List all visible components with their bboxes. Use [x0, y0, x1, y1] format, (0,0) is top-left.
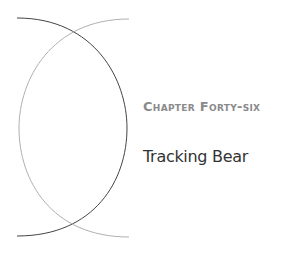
chapter-title: Tracking Bear	[143, 147, 248, 166]
decorative-arcs	[0, 0, 297, 259]
dark-arc	[17, 18, 127, 236]
light-arc	[19, 19, 129, 237]
chapter-number: Chapter Forty-six	[143, 99, 260, 114]
